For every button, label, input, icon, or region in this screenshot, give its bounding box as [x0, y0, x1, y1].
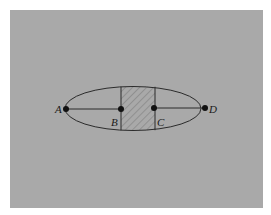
label-d: D — [208, 103, 217, 115]
label-c: C — [157, 116, 165, 128]
point-a — [63, 106, 69, 112]
point-c — [151, 105, 157, 111]
point-d — [202, 105, 208, 111]
ellipse-diagram: A B C D — [0, 0, 271, 215]
hatched-region — [121, 85, 155, 133]
label-b: B — [111, 116, 118, 128]
label-a: A — [54, 103, 62, 115]
point-b — [118, 106, 124, 112]
